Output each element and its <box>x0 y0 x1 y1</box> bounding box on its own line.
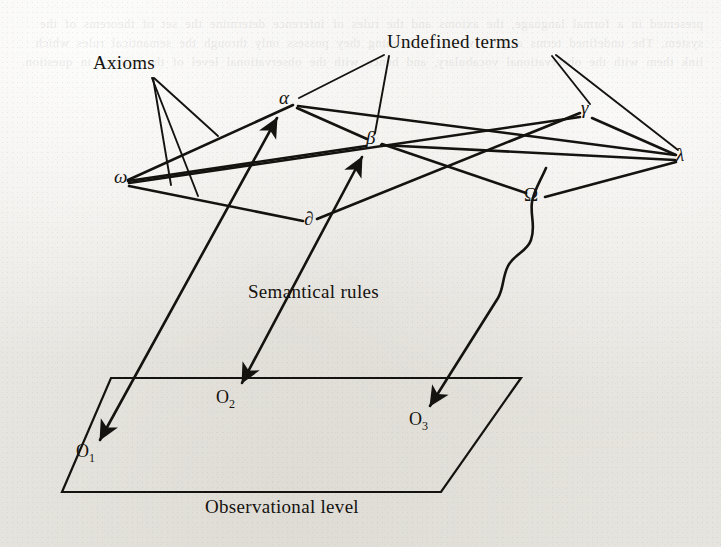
undefined-terms-leader-alpha <box>299 55 384 98</box>
observational-node-O1: O1 <box>76 441 95 466</box>
undefined-terms-leader-lines <box>299 55 678 150</box>
semantical-arrow-O2-beta <box>242 157 362 383</box>
node-omega: ω <box>114 166 127 188</box>
node-partial: ∂ <box>304 208 313 230</box>
edge-bigomega-lambda <box>545 162 676 197</box>
O2-base: O <box>216 387 229 407</box>
node-gamma: γ <box>581 97 589 119</box>
theoretical-edges <box>128 105 676 221</box>
plane-outline <box>62 378 521 492</box>
observational-node-O2: O2 <box>216 387 235 412</box>
O1-sub: 1 <box>89 451 95 465</box>
axioms-label: Axioms <box>93 52 155 74</box>
O1-base: O <box>76 441 89 461</box>
observational-node-O3: O3 <box>409 409 428 434</box>
undefined-terms-leader-lambda <box>556 55 678 150</box>
theory-structure-diagram <box>0 0 721 547</box>
observational-level-label: Observational level <box>205 496 359 518</box>
node-big-omega: Ω <box>524 184 538 206</box>
figure-page: presented in a formal language, the axio… <box>0 0 721 547</box>
O3-sub: 3 <box>422 419 428 433</box>
edge-omega-delta <box>129 186 303 221</box>
semantical-rules-label: Semantical rules <box>248 281 379 303</box>
O3-base: O <box>409 409 422 429</box>
node-beta: β <box>366 127 375 149</box>
O2-sub: 2 <box>229 397 235 411</box>
observational-plane <box>62 378 521 492</box>
node-lambda: λ <box>676 144 684 166</box>
node-alpha: α <box>279 87 289 109</box>
undefined-terms-leader-beta <box>375 56 389 133</box>
axioms-leader-2 <box>153 78 171 185</box>
undefined-terms-label: Undefined terms <box>387 31 519 53</box>
